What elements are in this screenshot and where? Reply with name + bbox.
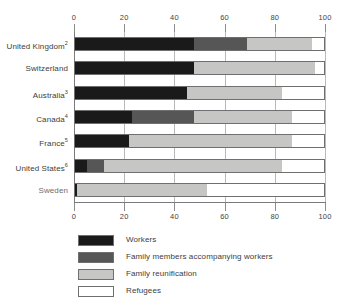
bar-row: [74, 134, 325, 148]
bar-segment-refugees: [282, 86, 325, 100]
bar-row: [74, 61, 325, 75]
x-tick-top: [275, 24, 276, 32]
bar-segment-refugees: [282, 159, 325, 173]
bar-segment-family-members-accompanying-workers: [87, 159, 105, 173]
category-footnote-marker: 6: [65, 162, 68, 168]
bar-row: [74, 159, 325, 173]
legend-label: Family reunification: [126, 269, 197, 278]
bar-segment-family-reunification: [104, 159, 282, 173]
x-tick-bottom: [325, 203, 326, 211]
category-label-sweden: Sweden: [0, 186, 68, 195]
bar-segment-workers: [74, 37, 194, 51]
legend-swatch: [78, 286, 114, 297]
legend-label: Refugees: [126, 286, 161, 295]
bar-segment-family-reunification: [77, 183, 208, 197]
category-footnote-marker: 4: [65, 113, 68, 119]
x-tick-label-top: 20: [109, 13, 139, 22]
bar-segment-family-members-accompanying-workers: [194, 37, 247, 51]
x-tick-top: [174, 24, 175, 32]
bar-segment-family-reunification: [194, 110, 292, 124]
legend-swatch: [78, 252, 114, 263]
x-tick-label-bottom: 100: [310, 212, 340, 221]
bar-segment-workers: [74, 110, 132, 124]
legend-label: Workers: [126, 235, 156, 244]
x-axis-line: [74, 202, 326, 203]
legend-label: Family members accompanying workers: [126, 252, 273, 261]
bar-segment-family-reunification: [194, 61, 314, 75]
x-tick-label-bottom: 80: [260, 212, 290, 221]
x-tick-label-top: 40: [159, 13, 189, 22]
category-footnote-marker: 5: [65, 137, 68, 143]
x-tick-label-bottom: 0: [59, 212, 89, 221]
category-footnote-marker: 3: [65, 89, 68, 95]
x-tick-label-top: 80: [260, 13, 290, 22]
bar-row: [74, 86, 325, 100]
x-tick-label-top: 100: [310, 13, 340, 22]
bar-row: [74, 37, 325, 51]
bar-segment-workers: [74, 61, 194, 75]
legend-item: Family members accompanying workers: [78, 250, 328, 266]
x-tick-label-bottom: 20: [109, 212, 139, 221]
bar-row: [74, 110, 325, 124]
category-label-switzerland: Switzerland: [0, 64, 68, 73]
category-label-united-states: United States6: [0, 162, 68, 173]
category-label-canada: Canada4: [0, 113, 68, 124]
bar-row: [74, 183, 325, 197]
gridline: [325, 32, 326, 202]
x-tick-bottom: [124, 203, 125, 211]
legend-swatch: [78, 269, 114, 280]
x-tick-label-top: 0: [59, 13, 89, 22]
bar-segment-refugees: [292, 134, 325, 148]
x-tick-label-bottom: 40: [159, 212, 189, 221]
x-tick-bottom: [275, 203, 276, 211]
category-label-france: France5: [0, 137, 68, 148]
x-tick-top: [225, 24, 226, 32]
bar-segment-workers: [74, 86, 187, 100]
x-tick-bottom: [225, 203, 226, 211]
x-tick-bottom: [74, 203, 75, 211]
category-label-united-kingdom: United Kingdom2: [0, 40, 68, 51]
legend-item: Workers: [78, 233, 328, 249]
bar-segment-refugees: [207, 183, 325, 197]
bar-segment-family-reunification: [129, 134, 292, 148]
category-footnote-marker: 2: [65, 40, 68, 46]
x-tick-label-bottom: 60: [210, 212, 240, 221]
stacked-bar-chart: 020406080100 020406080100 United Kingdom…: [0, 0, 342, 307]
x-tick-label-top: 60: [210, 13, 240, 22]
bar-segment-workers: [74, 134, 129, 148]
x-tick-top: [325, 24, 326, 32]
bar-segment-refugees: [292, 110, 325, 124]
x-tick-top: [74, 24, 75, 32]
chart-legend: WorkersFamily members accompanying worke…: [78, 233, 328, 301]
bar-segment-refugees: [315, 61, 325, 75]
bar-segment-refugees: [312, 37, 325, 51]
legend-item: Refugees: [78, 284, 328, 300]
bar-segment-workers: [74, 159, 87, 173]
x-tick-top: [124, 24, 125, 32]
legend-item: Family reunification: [78, 267, 328, 283]
category-label-australia: Australia3: [0, 89, 68, 100]
bar-segment-family-reunification: [187, 86, 282, 100]
x-tick-bottom: [174, 203, 175, 211]
legend-swatch: [78, 235, 114, 246]
bar-segment-family-members-accompanying-workers: [132, 110, 195, 124]
bar-segment-family-reunification: [247, 37, 312, 51]
